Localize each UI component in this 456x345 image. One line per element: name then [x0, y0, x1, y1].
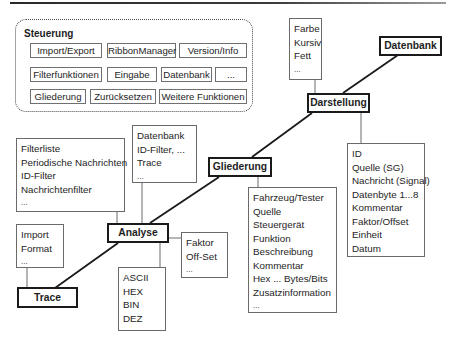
list-item: Filterliste: [21, 142, 124, 156]
list-item: Faktor: [186, 236, 227, 250]
list-item: ...: [294, 63, 321, 77]
darstellung-fields-list: ID Quelle (SG) Nachricht (Signal) Datenb…: [347, 143, 425, 257]
gliederung-button[interactable]: Gliederung: [30, 89, 86, 104]
gliederung-fields-list: Fahrzeug/Tester Quelle Steuergerät Funkt…: [248, 187, 337, 313]
list-item: Kursiv: [294, 36, 321, 50]
list-item: Kommentar: [352, 201, 424, 215]
zuruecksetzen-button[interactable]: Zurücksetzen: [90, 89, 156, 104]
analyse-formats-list: ASCII HEX BIN DEZ: [118, 267, 166, 331]
datenbank-button[interactable]: Datenbank: [161, 67, 212, 82]
version-info-button[interactable]: Version/Info: [179, 43, 247, 58]
list-item: Fett: [294, 49, 321, 63]
node-trace: Trace: [17, 287, 78, 308]
node-darstellung: Darstellung: [307, 93, 370, 113]
list-item: Zusatzinformation: [253, 286, 336, 300]
list-item: ...: [253, 299, 336, 313]
list-item: Fahrzeug/Tester: [253, 191, 336, 205]
list-item: Off-Set: [186, 250, 227, 264]
list-item: Quelle: [253, 205, 336, 219]
node-analyse: Analyse: [107, 223, 169, 243]
line-gliederung-darstellung: [252, 113, 312, 157]
list-item: Datum: [352, 242, 424, 256]
list-item: ...: [21, 255, 63, 269]
analyse-scaling-list: Faktor Off-Set ...: [181, 232, 228, 278]
list-item: Nachrichtenfilter: [21, 183, 124, 197]
list-item: DEZ: [123, 312, 165, 326]
ribbon-manager-button[interactable]: RibbonManager: [107, 43, 176, 58]
node-gliederung: Gliederung: [208, 157, 272, 177]
list-item: BIN: [123, 298, 165, 312]
list-item: Steuergerät: [253, 218, 336, 232]
list-item: Quelle (SG): [352, 161, 424, 175]
list-item: HEX: [123, 285, 165, 299]
list-item: ...: [21, 196, 124, 210]
steuerung-label: Steuerung: [24, 28, 73, 39]
line-trace-analyse: [55, 243, 118, 288]
list-item: Nachricht (Signal): [352, 174, 424, 188]
list-item: ID-Filter: [21, 169, 124, 183]
trace-import-list: Import Format ...: [16, 224, 64, 268]
list-item: Periodische Nachrichten: [21, 156, 124, 170]
list-item: Trace: [137, 156, 196, 170]
filterfunktionen-button[interactable]: Filterfunktionen: [30, 67, 102, 82]
list-item: ...: [186, 263, 227, 277]
list-item: Einheit: [352, 228, 424, 242]
list-item: Import: [21, 228, 63, 242]
list-item: ASCII: [123, 271, 165, 285]
list-item: ID: [352, 147, 424, 161]
analyse-filter-list: Filterliste Periodische Nachrichten ID-F…: [16, 138, 125, 212]
list-item: Faktor/Offset: [352, 215, 424, 229]
line-analyse-gliederung: [150, 177, 219, 223]
import-export-button[interactable]: Import/Export: [30, 43, 102, 58]
node-datenbank: Datenbank: [379, 36, 442, 56]
list-item: Kommentar: [253, 259, 336, 273]
list-item: Funktion: [253, 232, 336, 246]
list-item: ID-Filter, ...: [137, 143, 196, 157]
weitere-funktionen-button[interactable]: Weitere Funktionen: [159, 89, 247, 104]
darstellung-format-list: Farbe Kursiv Fett ...: [289, 18, 322, 80]
list-item: Datenbyte 1...8: [352, 188, 424, 202]
list-item: Beschreibung: [253, 245, 336, 259]
list-item: ...: [137, 170, 196, 184]
eingabe-button[interactable]: Eingabe: [107, 67, 157, 82]
line-darstellung-datenbank: [343, 55, 398, 93]
list-item: Format: [21, 242, 63, 256]
more-button[interactable]: ...: [215, 67, 247, 82]
list-item: Datenbank: [137, 129, 196, 143]
analyse-sources-list: Datenbank ID-Filter, ... Trace ...: [132, 125, 197, 183]
list-item: Farbe: [294, 22, 321, 36]
list-item: Hex ... Bytes/Bits: [253, 272, 336, 286]
